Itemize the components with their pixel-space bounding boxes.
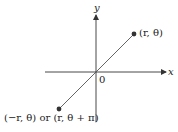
point-neg-r-theta-label: (−r, θ) or (r, θ + π) [4,113,99,123]
reflection-line [59,34,134,109]
point-r-theta [132,32,137,37]
point-neg-r-theta [57,107,62,112]
origin-label: 0 [99,75,105,85]
x-axis-label: x [168,67,174,77]
y-axis-label: y [94,3,100,13]
polar-diagram: y x 0 (r, θ) (−r, θ) or (r, θ + π) [0,0,178,132]
point-r-theta-label: (r, θ) [139,28,163,38]
